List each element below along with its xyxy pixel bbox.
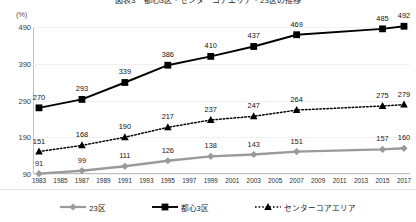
data-point-label: 160 (391, 133, 416, 142)
data-point-marker (70, 203, 77, 210)
data-point-label: 293 (69, 84, 95, 93)
data-point-marker (79, 96, 86, 103)
data-point-marker (164, 157, 171, 164)
data-point-label: 126 (155, 146, 181, 155)
data-point-label: 410 (198, 41, 224, 50)
data-point-marker (121, 79, 128, 86)
legend-item-2[interactable]: センターコアエリア (255, 202, 356, 213)
data-point-label: 339 (112, 67, 138, 76)
data-point-marker (161, 204, 168, 211)
data-point-label: 237 (198, 105, 224, 114)
data-point-label: 437 (241, 31, 267, 40)
data-point-label: 247 (241, 101, 267, 110)
data-point-marker (400, 145, 407, 152)
legend-label: 23区 (89, 202, 105, 213)
data-point-marker (36, 104, 43, 111)
data-point-label: 111 (112, 151, 138, 160)
legend-marker-square-icon (152, 202, 178, 212)
legend-divider (0, 189, 416, 190)
data-point-label: 386 (155, 50, 181, 59)
data-point-label: 151 (26, 137, 52, 146)
data-point-label: 217 (155, 112, 181, 121)
data-point-label: 99 (69, 156, 95, 165)
data-point-marker (35, 148, 43, 155)
data-point-label: 492 (391, 11, 416, 20)
data-point-marker (207, 53, 214, 60)
data-point-marker (78, 167, 85, 174)
legend-label: 都心3区 (181, 202, 209, 213)
legend-label: センターコアエリア (284, 202, 356, 213)
chart-legend: 23区都心3区センターコアエリア (0, 196, 416, 218)
legend-marker-diamond-icon (60, 202, 86, 212)
data-point-marker (293, 148, 300, 155)
data-point-marker (250, 43, 257, 50)
data-point-label: 264 (284, 95, 310, 104)
data-point-marker (293, 31, 300, 38)
data-point-label: 138 (198, 141, 224, 150)
data-point-marker (401, 23, 408, 30)
data-point-marker (164, 62, 171, 69)
data-point-label: 151 (284, 137, 310, 146)
data-point-marker (35, 170, 42, 177)
data-point-marker (379, 146, 386, 153)
legend-marker-triangle-icon (255, 202, 281, 212)
data-point-marker (400, 101, 408, 108)
data-point-marker (121, 163, 128, 170)
legend-item-1[interactable]: 都心3区 (152, 202, 209, 213)
data-point-label: 168 (69, 130, 95, 139)
series-line (39, 26, 404, 108)
data-point-marker (207, 153, 214, 160)
data-point-marker (379, 25, 386, 32)
data-point-label: 279 (391, 90, 416, 99)
chart-container: 図表3 都心3区・センターコアエリア・23区の推移 (%) 9019029039… (0, 0, 416, 222)
data-point-label: 469 (284, 20, 310, 29)
legend-item-0[interactable]: 23区 (60, 202, 105, 213)
data-point-label: 270 (26, 93, 52, 102)
data-point-label: 91 (26, 159, 52, 168)
data-point-label: 190 (112, 122, 138, 131)
data-point-marker (250, 151, 257, 158)
data-point-label: 143 (241, 140, 267, 149)
